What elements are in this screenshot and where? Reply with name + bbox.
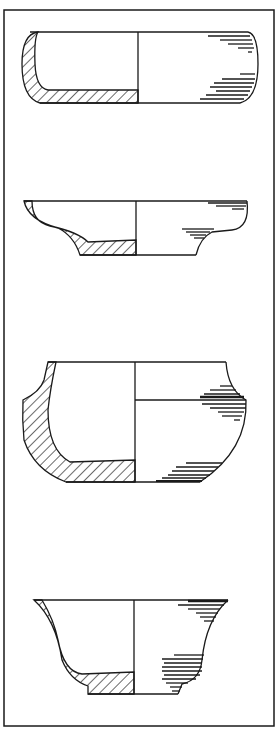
vessel-4-section — [34, 600, 134, 694]
pottery-figure — [0, 0, 277, 729]
vessel-2-shading — [182, 203, 247, 238]
vessel-1-outer-profile — [240, 32, 258, 103]
vessel-2 — [24, 201, 247, 255]
vessel-1-section — [22, 32, 138, 103]
vessel-4 — [34, 600, 228, 694]
vessel-3 — [23, 362, 246, 482]
vessel-3-section — [23, 362, 135, 482]
vessel-3-outer-profile — [200, 362, 246, 482]
vessel-1-shading — [200, 36, 255, 99]
vessel-2-section — [24, 201, 136, 255]
vessel-1 — [22, 32, 258, 103]
vessel-4-outer-profile — [178, 600, 228, 694]
figure-frame — [4, 10, 274, 726]
